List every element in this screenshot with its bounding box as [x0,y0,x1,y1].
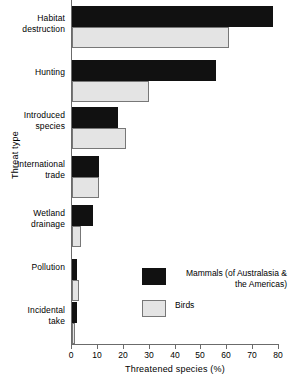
legend-label-birds: Birds [175,300,287,311]
x-tick-20 [123,345,124,349]
legend-swatch-birds [142,300,166,317]
bar-mammals-incidental-take [72,302,77,323]
bar-birds-hunting [72,81,149,102]
x-tick-30 [149,345,150,349]
category-label-introduced-species: Introduced species [0,110,65,131]
x-tick-50 [200,345,201,349]
bar-mammals-international-trade [72,156,99,177]
category-label-wetland-drainage: Wetland drainage [0,208,65,229]
bar-mammals-wetland-drainage [72,205,93,226]
x-tick-label-60: 60 [215,350,237,360]
x-tick-label-40: 40 [164,350,186,360]
x-tick-label-10: 10 [86,350,108,360]
category-label-incidental-take: Incidental take [0,305,65,326]
legend-label-mammals: Mammals (of Australasia & the Americas) [175,268,287,289]
x-tick-label-80: 80 [267,350,289,360]
x-tick-70 [252,345,253,349]
bar-birds-pollution [72,280,79,301]
category-label-line: destruction [0,24,65,35]
bar-mammals-pollution [72,259,77,280]
x-tick-label-50: 50 [189,350,211,360]
category-label-line: International [0,159,65,170]
x-tick-40 [175,345,176,349]
legend-label-line: Birds [175,300,287,311]
x-tick-60 [226,345,227,349]
x-tick-80 [278,345,279,349]
category-label-hunting: Hunting [0,67,65,78]
plot-area [72,0,278,344]
legend-label-line: the Americas) [175,279,287,290]
category-label-group: Habitat destruction Hunting Introduced s… [0,0,68,345]
category-label-line: trade [0,170,65,181]
category-label-line: Pollution [0,262,65,273]
category-label-habitat-destruction: Habitat destruction [0,13,65,34]
bar-chart: Threat type Habitat destruction Hunting … [0,0,291,382]
legend-label-line: Mammals (of Australasia & [175,268,287,279]
category-label-line: take [0,316,65,327]
bar-birds-international-trade [72,177,99,198]
bar-birds-habitat-destruction [72,27,229,48]
x-tick-label-70: 70 [241,350,263,360]
x-tick-0 [71,345,72,349]
bar-mammals-hunting [72,60,216,81]
category-label-line: Wetland [0,208,65,219]
x-tick-10 [97,345,98,349]
category-label-international-trade: International trade [0,159,65,180]
category-label-line: species [0,121,65,132]
x-tick-label-30: 30 [138,350,160,360]
bar-birds-introduced-species [72,128,126,149]
category-label-line: Incidental [0,305,65,316]
category-label-line: Introduced [0,110,65,121]
category-label-pollution: Pollution [0,262,65,273]
category-label-line: drainage [0,219,65,230]
bar-mammals-introduced-species [72,107,118,128]
x-tick-label-20: 20 [112,350,134,360]
x-axis-title: Threatened species (%) [72,364,278,374]
bar-mammals-habitat-destruction [72,6,273,27]
bar-birds-wetland-drainage [72,226,81,247]
category-label-line: Hunting [0,67,65,78]
category-label-line: Habitat [0,13,65,24]
x-tick-label-0: 0 [60,350,82,360]
bar-birds-incidental-take [72,323,75,344]
legend-swatch-mammals [142,268,166,285]
